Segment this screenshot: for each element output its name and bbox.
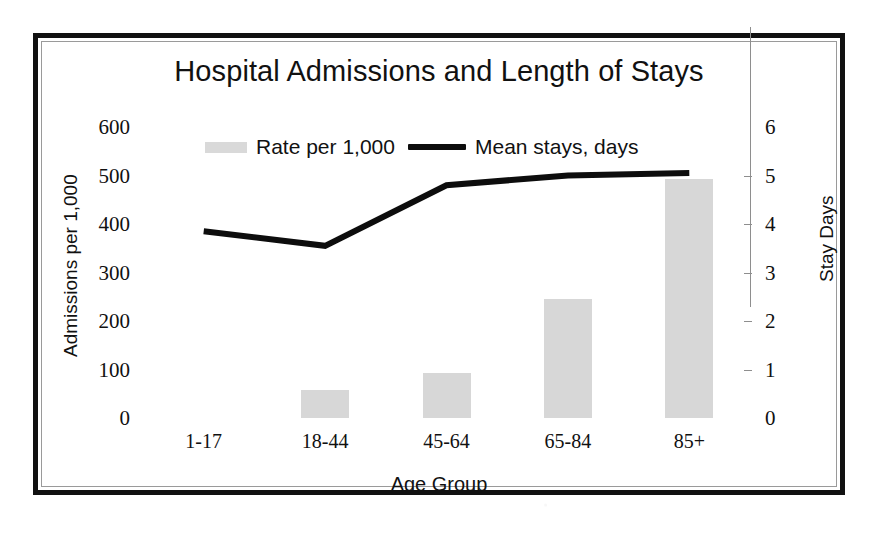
y-axis-left-title: Admissions per 1,000 — [60, 174, 82, 357]
x-axis-tick-label: 18-44 — [302, 430, 349, 453]
x-axis-tick-label: 1-17 — [185, 430, 222, 453]
chart-frame-border: Hospital Admissions and Length of Stays … — [33, 33, 845, 495]
chart-plot-area: Hospital Admissions and Length of Stays … — [38, 38, 840, 490]
x-axis-tick-label: 85+ — [674, 430, 705, 453]
figure-root: Hospital Admissions and Length of Stays … — [0, 0, 880, 549]
line-path-mean-stays — [204, 173, 690, 246]
y-axis-right-title: Stay Days — [816, 195, 838, 282]
x-axis-tick-label: 45-64 — [423, 430, 470, 453]
x-axis-tick-label: 65-84 — [545, 430, 592, 453]
x-axis-title: Age Group — [38, 473, 840, 496]
